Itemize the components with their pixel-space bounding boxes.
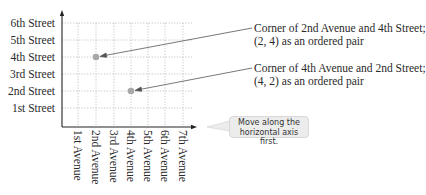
x-label-3rd-avenue: 3rd Avenue bbox=[108, 130, 120, 182]
x-label-4th-avenue: 4th Avenue bbox=[125, 130, 137, 182]
annotation-4-2: Corner of 4th Avenue and 2nd Street; (4,… bbox=[254, 62, 426, 87]
x-label-6th-avenue: 6th Avenue bbox=[159, 130, 171, 182]
y-label-5th-street: 5th Street bbox=[11, 34, 55, 46]
leader-arrows bbox=[100, 28, 252, 131]
y-label-4th-street: 4th Street bbox=[11, 51, 55, 63]
y-label-1st-street: 1st Street bbox=[12, 102, 55, 114]
callout-line2: horizontal axis first. bbox=[230, 128, 308, 147]
x-axis-arrow-icon bbox=[191, 125, 197, 129]
annotation-4-2-line2: (4, 2) as an ordered pair bbox=[254, 75, 426, 88]
annotation-2-4-line1: Corner of 2nd Avenue and 4th Street; bbox=[254, 22, 426, 35]
y-axis-arrow-icon bbox=[60, 10, 64, 16]
gridlines bbox=[62, 23, 192, 127]
x-label-2nd-avenue: 2nd Avenue bbox=[90, 130, 102, 184]
annotation-2-4: Corner of 2nd Avenue and 4th Street; (2,… bbox=[254, 22, 426, 47]
y-label-3rd-street: 3rd Street bbox=[10, 68, 55, 80]
axes bbox=[60, 10, 197, 129]
x-label-5th-avenue: 5th Avenue bbox=[142, 130, 154, 182]
point-4-2 bbox=[128, 88, 135, 95]
annotation-4-2-line1: Corner of 4th Avenue and 2nd Street; bbox=[254, 62, 426, 75]
annotation-2-4-line2: (2, 4) as an ordered pair bbox=[254, 35, 426, 48]
x-label-7th-avenue: 7th Avenue bbox=[177, 130, 189, 182]
y-label-6th-street: 6th Street bbox=[11, 17, 55, 29]
callout-note: Move along the horizontal axis first. bbox=[229, 116, 309, 138]
point-2-4 bbox=[93, 54, 100, 61]
x-label-1st-avenue: 1st Avenue bbox=[72, 130, 84, 181]
callout-line1: Move along the bbox=[230, 118, 308, 128]
y-label-2nd-street: 2nd Street bbox=[8, 85, 55, 97]
